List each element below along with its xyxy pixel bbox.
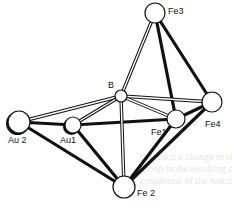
atom-fe4 — [202, 92, 222, 112]
cluster-diagram: Fe3 B Au 2 Au1 Fe1 Fe4 Fe 2 — [0, 0, 232, 211]
atom-fe1 — [167, 110, 185, 128]
atom-fe3 — [145, 3, 165, 23]
label-fe1: Fe1 — [151, 127, 167, 137]
bond-au1-fe1 — [73, 119, 176, 125]
label-au2: Au 2 — [8, 135, 27, 145]
bond-b-fe2 — [121, 96, 124, 187]
bond-fe1-fe2 — [124, 119, 176, 187]
atom-fe2 — [113, 176, 135, 198]
label-fe4: Fe4 — [205, 119, 221, 129]
atom-b — [115, 90, 127, 102]
bond-au1-fe2 — [73, 125, 124, 187]
atom-au2 — [6, 111, 30, 135]
label-au1: Au1 — [60, 135, 76, 145]
label-fe3: Fe3 — [168, 6, 184, 16]
hollow-bonds — [19, 13, 212, 187]
label-fe2: Fe 2 — [137, 188, 155, 198]
label-b: B — [108, 80, 114, 90]
bond-b-fe3 — [121, 13, 155, 96]
